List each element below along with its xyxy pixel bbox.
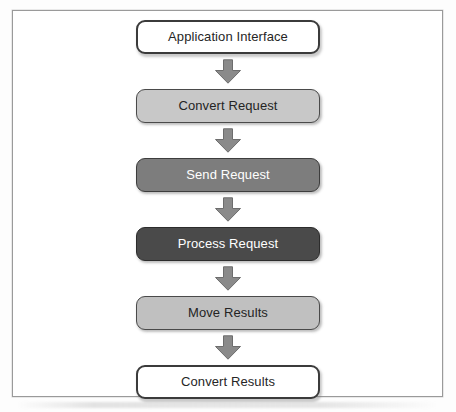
arrow-down-icon-4 bbox=[213, 266, 243, 291]
flow-node-send-request[interactable]: Send Request bbox=[136, 158, 320, 192]
flow-node-move-results[interactable]: Move Results bbox=[136, 296, 320, 330]
flow-node-application-interface[interactable]: Application Interface bbox=[136, 20, 320, 54]
flow-node-label: Move Results bbox=[188, 306, 268, 320]
flowchart-canvas: Application Interface Convert Request Se… bbox=[0, 0, 456, 412]
flow-node-label: Process Request bbox=[178, 237, 279, 251]
arrow-down-icon-5 bbox=[213, 335, 243, 360]
flow-node-convert-request[interactable]: Convert Request bbox=[136, 89, 320, 123]
flow-node-process-request[interactable]: Process Request bbox=[136, 227, 320, 261]
flow-node-convert-results[interactable]: Convert Results bbox=[136, 365, 320, 399]
arrow-down-icon-1 bbox=[213, 59, 243, 84]
flow-node-label: Convert Results bbox=[181, 375, 275, 389]
flow-node-label: Application Interface bbox=[168, 30, 288, 44]
flow-node-label: Send Request bbox=[186, 168, 270, 182]
arrow-down-icon-2 bbox=[213, 128, 243, 153]
arrow-down-icon-3 bbox=[213, 197, 243, 222]
flow-node-label: Convert Request bbox=[178, 99, 277, 113]
scan-artifact bbox=[18, 402, 438, 408]
flowchart-figure: Application Interface Convert Request Se… bbox=[0, 0, 456, 412]
